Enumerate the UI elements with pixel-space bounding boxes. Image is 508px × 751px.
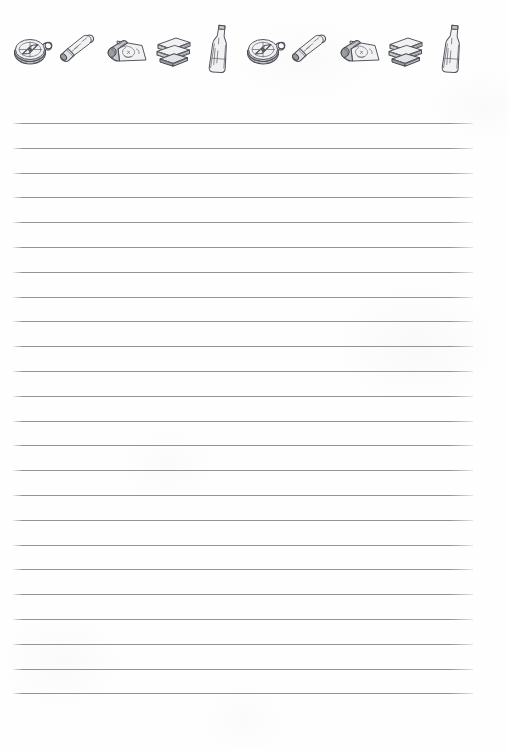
writing-line (13, 669, 473, 670)
writing-line (13, 148, 473, 149)
writing-line (13, 346, 473, 347)
writing-line (13, 222, 473, 223)
writing-line (13, 445, 473, 446)
writing-line (13, 123, 473, 124)
writing-line (13, 644, 473, 645)
writing-line (13, 371, 473, 372)
writing-line (13, 693, 473, 694)
writing-line (13, 421, 473, 422)
writing-line (13, 247, 473, 248)
writing-line (13, 396, 473, 397)
writing-line (13, 520, 473, 521)
writing-line (13, 545, 473, 546)
writing-line (13, 173, 473, 174)
writing-lines (0, 0, 508, 751)
writing-line (13, 470, 473, 471)
writing-line (13, 619, 473, 620)
writing-line (13, 297, 473, 298)
writing-line (13, 569, 473, 570)
writing-line (13, 495, 473, 496)
writing-line (13, 594, 473, 595)
writing-line (13, 197, 473, 198)
writing-line (13, 321, 473, 322)
notebook-page (0, 0, 508, 751)
writing-line (13, 272, 473, 273)
